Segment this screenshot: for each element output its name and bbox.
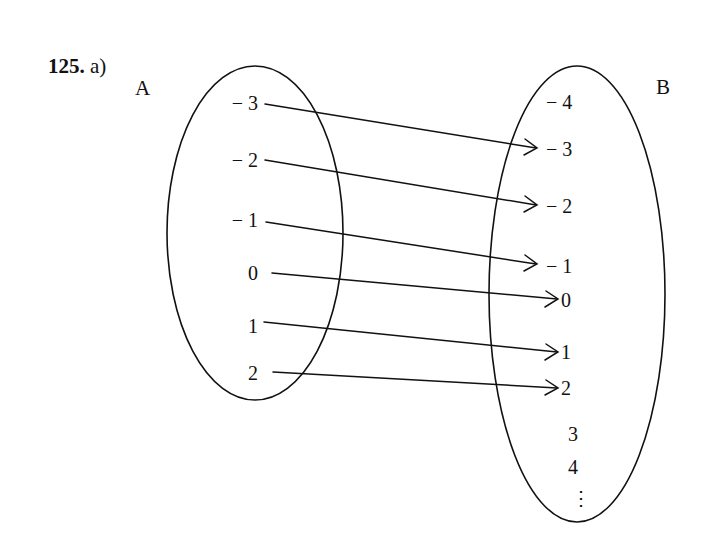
problem-part: a): [90, 54, 106, 78]
set-b-element: 1: [561, 342, 571, 362]
set-a-element: 2: [198, 363, 258, 383]
set-a-ellipse: [167, 66, 343, 400]
arrow-neg1-to-neg1: [266, 222, 537, 271]
arrow-2-to-2: [273, 372, 558, 395]
set-b-label: B: [656, 77, 670, 98]
set-a-element: − 3: [198, 93, 258, 113]
set-b-ellipsis: ⋮: [571, 488, 591, 508]
set-b-ellipse: [489, 66, 665, 522]
set-a-element: 1: [198, 316, 258, 336]
arrow-0-to-0: [272, 273, 558, 307]
set-b-element: − 3: [546, 139, 572, 159]
set-a-element: − 2: [198, 150, 258, 170]
set-b-element: 3: [568, 424, 578, 444]
set-b-element: − 1: [546, 256, 572, 276]
arrow-1-to-1: [264, 322, 558, 360]
problem-title: 125. a): [48, 55, 106, 77]
set-b-element: − 2: [546, 196, 572, 216]
arrow-neg3-to-neg3: [265, 104, 537, 155]
set-b-element: 0: [561, 290, 571, 310]
set-b-element: 4: [568, 457, 578, 477]
set-b-element: 2: [561, 378, 571, 398]
set-a-label: A: [135, 78, 150, 99]
set-a-element: − 1: [198, 210, 258, 230]
mapping-diagram: [0, 0, 715, 543]
set-a-element: 0: [198, 263, 258, 283]
problem-number: 125.: [48, 54, 85, 78]
set-b-element: − 4: [546, 92, 572, 112]
